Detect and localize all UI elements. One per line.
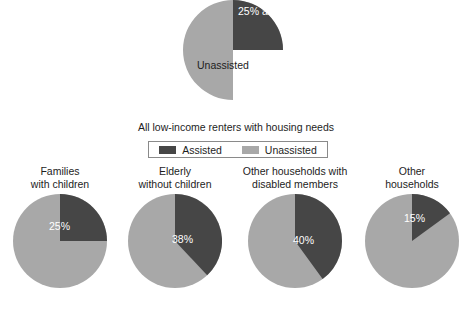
small-chart-title: Other households with disabled members [236,165,354,191]
main-pie-chart [183,0,283,100]
legend-item-unassisted: Unassisted [242,144,317,156]
small-pie-chart: 38% [128,194,222,288]
legend-item-assisted: Assisted [159,144,222,156]
legend-swatch-unassisted-icon [242,146,259,154]
small-chart-families-with-children: Families with children 25% [1,165,119,319]
main-pie-slices [183,0,283,100]
small-chart-elderly-without-children: Elderly without children 38% [116,165,234,319]
main-pie-slice-assisted [233,0,283,50]
main-pie-svg [183,0,283,100]
small-chart-title: Elderly without children [116,165,234,191]
small-pie-chart-row: Families with children 25% Elderly witho… [0,165,472,319]
legend-swatch-assisted-icon [159,146,176,154]
legend-label-unassisted: Unassisted [265,144,317,156]
small-pie-chart: 40% [248,194,342,288]
small-pie-svg [128,194,222,288]
small-chart-title: Families with children [1,165,119,191]
legend-label-assisted: Assisted [182,144,222,156]
small-pie-svg [248,194,342,288]
figure-caption: All low-income renters with housing need… [0,121,472,133]
small-pie-chart: 25% [13,194,107,288]
legend: Assisted Unassisted [148,141,328,158]
small-pie-chart: 15% [365,194,459,288]
small-pie-svg [13,194,107,288]
small-chart-other-households-disabled: Other households with disabled members 4… [236,165,354,319]
small-pie-svg [365,194,459,288]
small-chart-other-households: Other households 15% [353,165,471,319]
small-pie-slice-assisted [60,194,107,241]
pie-chart-figure: 25% assisted Unassisted All low-income r… [0,0,472,319]
small-chart-title: Other households [353,165,471,191]
